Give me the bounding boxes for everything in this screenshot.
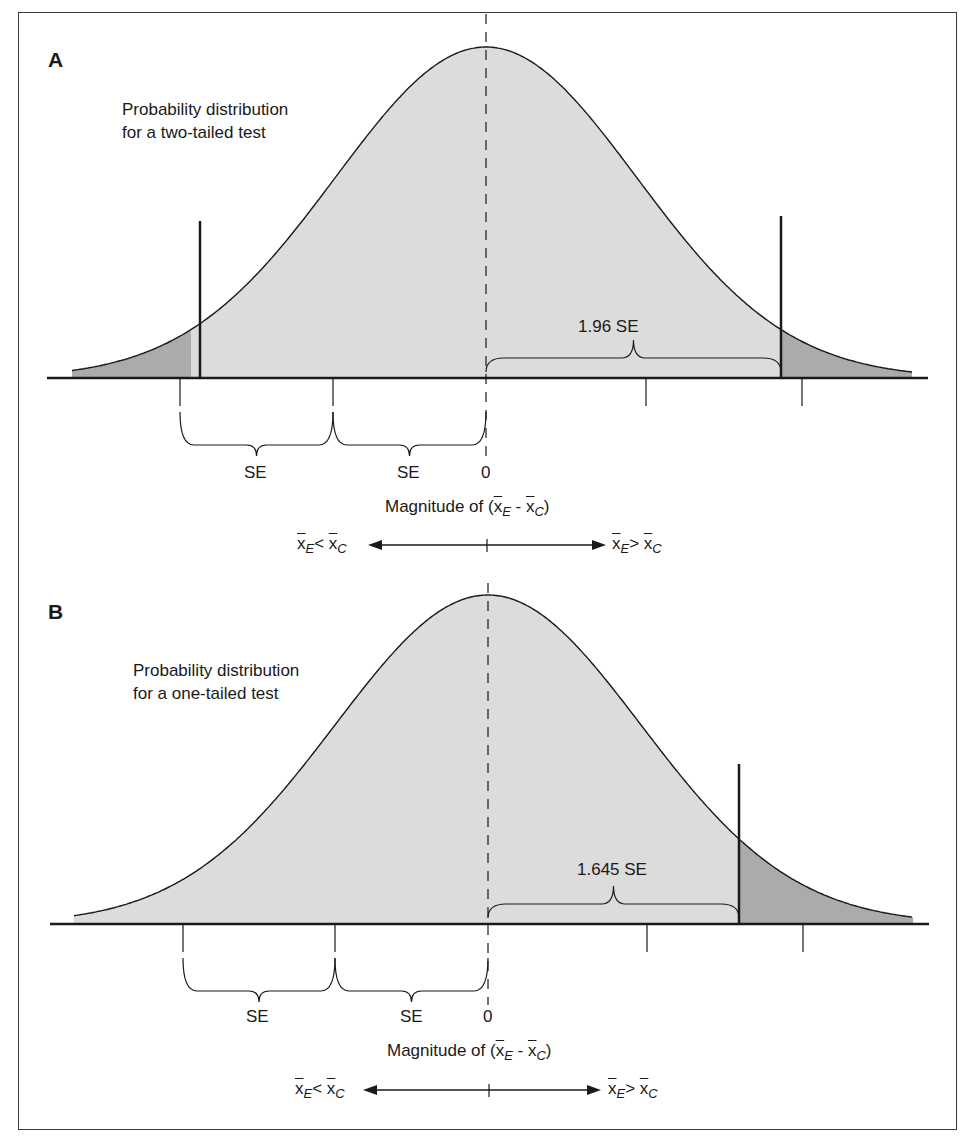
panel-b-letter: B — [48, 600, 63, 624]
panel-a-description-line1: Probability distribution — [122, 98, 288, 121]
figure-canvas — [0, 0, 975, 1140]
panel-a-letter: A — [48, 48, 63, 72]
panel-b-description: Probability distribution for a one-taile… — [133, 659, 299, 705]
panel-a-se-label-2: SE — [397, 463, 420, 483]
panel-a-description-line2: for a two-tailed test — [122, 121, 288, 144]
distribution-area — [72, 47, 912, 378]
arrow-left-head-icon — [368, 540, 382, 550]
panel-b-se-label-2: SE — [400, 1007, 423, 1027]
se-brace-2 — [333, 412, 486, 456]
panel-b-zero-label: 0 — [483, 1007, 492, 1027]
se-brace-2 — [335, 958, 488, 1002]
panel-a-axis-label: Magnitude of (xE - xC) — [385, 497, 550, 519]
arrow-right-head-icon — [587, 1085, 601, 1095]
distribution-area — [74, 595, 913, 924]
arrow-right-head-icon — [592, 540, 606, 550]
arrow-left-head-icon — [363, 1085, 377, 1095]
panel-a-critical-label: 1.96 SE — [578, 317, 639, 337]
panel-b-direction-left: xE< xC — [295, 1079, 345, 1101]
panel-a-se-label-1: SE — [244, 463, 267, 483]
upper-tail-area — [781, 330, 912, 379]
panel-b-description-line2: for a one-tailed test — [133, 682, 299, 705]
panel-a-description: Probability distribution for a two-taile… — [122, 98, 288, 144]
panel-b-critical-label: 1.645 SE — [577, 860, 647, 880]
panel-b-direction-right: xE> xC — [608, 1079, 658, 1101]
panel-b-description-line1: Probability distribution — [133, 659, 299, 682]
panel-b-axis-label: Magnitude of (xE - xC) — [387, 1041, 552, 1063]
upper-tail-area — [739, 839, 913, 924]
panel-a-direction-left: xE< xC — [297, 534, 347, 556]
panel-a-zero-label: 0 — [481, 463, 490, 483]
panel-a-direction-right: xE> xC — [612, 534, 662, 556]
lower-tail-area — [72, 330, 191, 379]
panel-b-se-label-1: SE — [246, 1007, 269, 1027]
se-brace-1 — [183, 958, 335, 1002]
se-brace-1 — [180, 412, 333, 456]
